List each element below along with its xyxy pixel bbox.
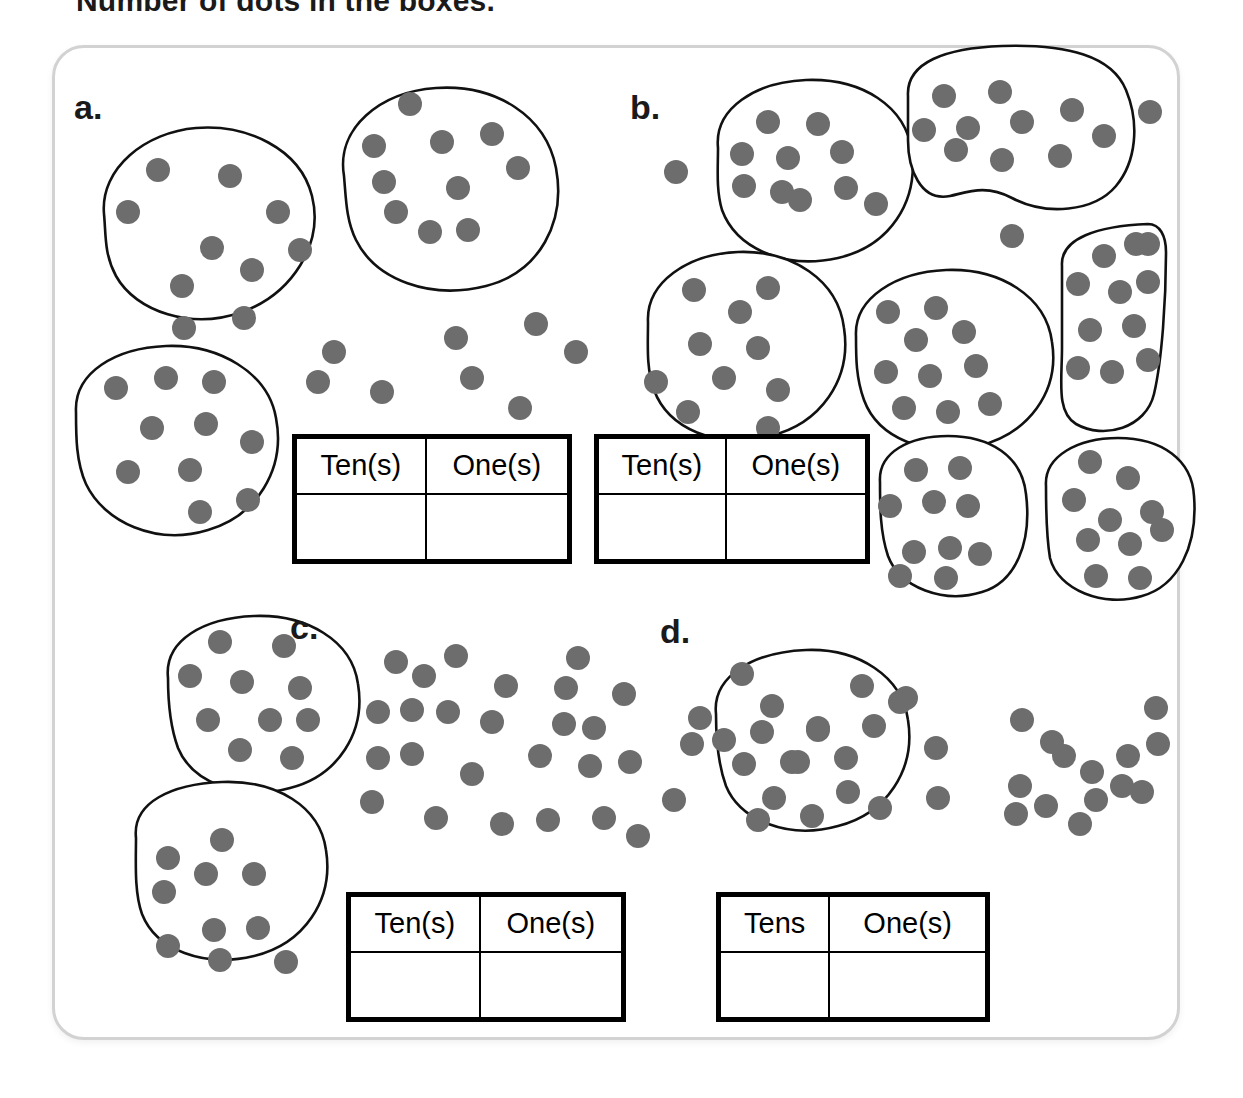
table-a-answer-ones[interactable] [426,494,568,560]
table-a-header-tens: Ten(s) [296,438,426,494]
table-d-header-ones: One(s) [829,896,986,952]
table-c-header-tens: Ten(s) [350,896,480,952]
page-title: Number of dots in the boxes. [76,0,495,18]
table-d-answer-tens[interactable] [720,952,829,1018]
table-c-header-ones: One(s) [480,896,622,952]
table-b-answer-tens[interactable] [598,494,726,560]
table-a-header-ones: One(s) [426,438,568,494]
panel-label-c: c. [290,608,318,647]
place-value-table-b[interactable]: Ten(s) One(s) [594,434,870,564]
table-b-header-ones: One(s) [726,438,866,494]
panel-label-d: d. [660,612,690,651]
table-d-header-tens: Tens [720,896,829,952]
table-c-answer-tens[interactable] [350,952,480,1018]
table-a-answer-tens[interactable] [296,494,426,560]
place-value-table-a[interactable]: Ten(s) One(s) [292,434,572,564]
table-b-header-tens: Ten(s) [598,438,726,494]
table-b-answer-ones[interactable] [726,494,866,560]
table-c-answer-ones[interactable] [480,952,622,1018]
place-value-table-d[interactable]: Tens One(s) [716,892,990,1022]
place-value-table-c[interactable]: Ten(s) One(s) [346,892,626,1022]
panel-label-b: b. [630,88,660,127]
panel-label-a: a. [74,88,102,127]
table-d-answer-ones[interactable] [829,952,986,1018]
